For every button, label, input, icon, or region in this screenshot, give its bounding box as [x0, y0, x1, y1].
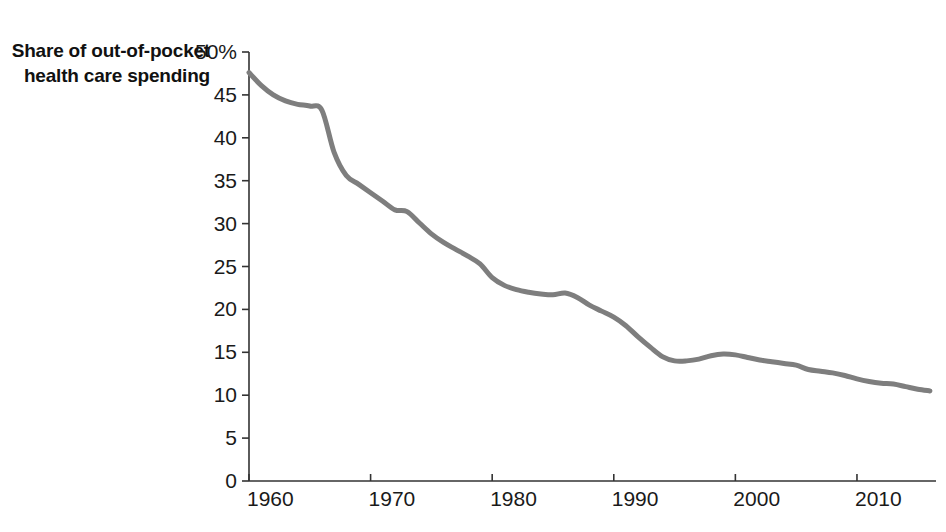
x-axis-tick-label: 2000 — [733, 488, 780, 509]
y-axis-tick-label: 20 — [214, 298, 237, 319]
y-axis-tick-label: 40 — [214, 127, 237, 148]
y-axis-tick-label: 25 — [214, 256, 237, 277]
y-axis-tick-label: 5 — [225, 427, 237, 448]
x-axis-tick-label: 1970 — [369, 488, 416, 509]
x-axis-tick-label: 1980 — [490, 488, 537, 509]
x-axis-tick-label: 1960 — [247, 488, 294, 509]
y-axis-tick-label: 10 — [214, 384, 237, 405]
y-axis-tick-label: 45 — [214, 84, 237, 105]
chart-figure: Share of out-of-pocket health care spend… — [0, 0, 946, 532]
y-axis-tick-label: 50% — [195, 41, 237, 62]
data-series-line — [249, 73, 930, 391]
y-axis-tick-label: 15 — [214, 341, 237, 362]
line-chart-plot — [0, 0, 946, 532]
y-axis-tick-label: 35 — [214, 170, 237, 191]
y-axis-tick-label: 0 — [225, 470, 237, 491]
x-axis-tick-label: 2010 — [855, 488, 902, 509]
x-axis-tick-label: 1990 — [612, 488, 659, 509]
chart-tick-marks — [242, 52, 857, 481]
y-axis-tick-label: 30 — [214, 213, 237, 234]
chart-axes — [249, 52, 936, 481]
